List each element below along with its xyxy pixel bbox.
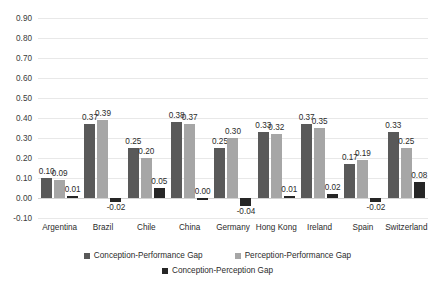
x-axis-category-label: Argentina [38,221,81,237]
x-axis-category-label: China [168,221,211,237]
y-axis-tick-label: 0.70 [0,54,32,63]
x-axis-category-label: Spain [341,221,384,237]
bar [357,160,368,198]
bar-value-label: 0.30 [218,127,248,136]
y-axis-tick-label: 0.00 [0,194,32,203]
y-axis-tick-label: 0.50 [0,94,32,103]
y-axis-tick-label: 0.80 [0,34,32,43]
bar-group: 0.380.370.00 [168,18,211,218]
legend-row-primary: Conception-Performance GapPerception-Per… [0,248,435,263]
bar [258,132,269,198]
bar [414,182,425,198]
bar-value-label: 0.33 [378,121,408,130]
bar [301,124,312,198]
bar [214,148,225,198]
x-axis-category-label: Germany [211,221,254,237]
bar [327,194,338,198]
bar [110,198,121,202]
legend-item[interactable]: Conception-Perception Gap [162,266,273,275]
plot-area: 0.100.090.010.370.39-0.020.250.200.050.3… [38,18,428,218]
legend-item[interactable]: Perception-Performance Gap [235,251,352,260]
y-axis-tick-label: 0.90 [0,14,32,23]
gridline [38,218,428,219]
bar-chart: 0.900.800.700.600.500.400.300.200.100.00… [0,0,435,294]
bar [197,198,208,200]
bar-group: 0.330.250.08 [385,18,428,218]
bar-value-label: 0.25 [118,137,148,146]
bar-value-label: 0.37 [175,113,205,122]
bar-value-label: 0.25 [391,137,421,146]
x-axis-category-label: Brazil [81,221,124,237]
bar-groups: 0.100.090.010.370.39-0.020.250.200.050.3… [38,18,428,218]
x-axis-category-label: Hong Kong [255,221,298,237]
bar-value-label: 0.35 [305,117,335,126]
bar-value-label: 0.39 [88,109,118,118]
bar-group: 0.250.30-0.04 [211,18,254,218]
bar-group: 0.170.19-0.02 [341,18,384,218]
bar-value-label: 0.19 [348,149,378,158]
legend-row-secondary: Conception-Perception Gap [0,263,435,278]
bar-value-label: 0.32 [261,123,291,132]
bar [84,124,95,198]
bar [227,138,238,198]
bar-group: 0.370.350.02 [298,18,341,218]
y-axis-tick-label: 0.60 [0,74,32,83]
bar-group: 0.370.39-0.02 [81,18,124,218]
bar [67,196,78,198]
legend-swatch-icon [84,253,90,259]
x-axis-labels: ArgentinaBrazilChileChinaGermanyHong Kon… [38,221,428,237]
x-axis-category-label: Chile [125,221,168,237]
y-axis-tick-label: 0.30 [0,134,32,143]
legend-item[interactable]: Conception-Performance Gap [84,251,203,260]
y-axis-tick-label: 0.10 [0,174,32,183]
bar [154,188,165,198]
bar-value-label: 0.09 [45,169,75,178]
bar [284,196,295,198]
bar [344,164,355,198]
legend-label: Conception-Perception Gap [172,266,273,275]
legend-label: Perception-Performance Gap [245,251,352,260]
bar [97,120,108,198]
x-axis-category-label: Ireland [298,221,341,237]
legend-swatch-icon [235,253,241,259]
chart-legend: Conception-Performance GapPerception-Per… [0,248,435,278]
bar-value-label: 0.20 [131,147,161,156]
y-axis-tick-label: 0.20 [0,154,32,163]
bar [171,122,182,198]
bar [370,198,381,202]
bar [240,198,251,206]
bar [41,178,52,198]
x-axis-category-label: Switzerland [385,221,428,237]
y-axis-tick-label: -0.10 [0,214,32,223]
bar-value-label: 0.08 [404,171,434,180]
legend-swatch-icon [162,268,168,274]
legend-label: Conception-Performance Gap [94,251,203,260]
y-axis-tick-label: 0.40 [0,114,32,123]
